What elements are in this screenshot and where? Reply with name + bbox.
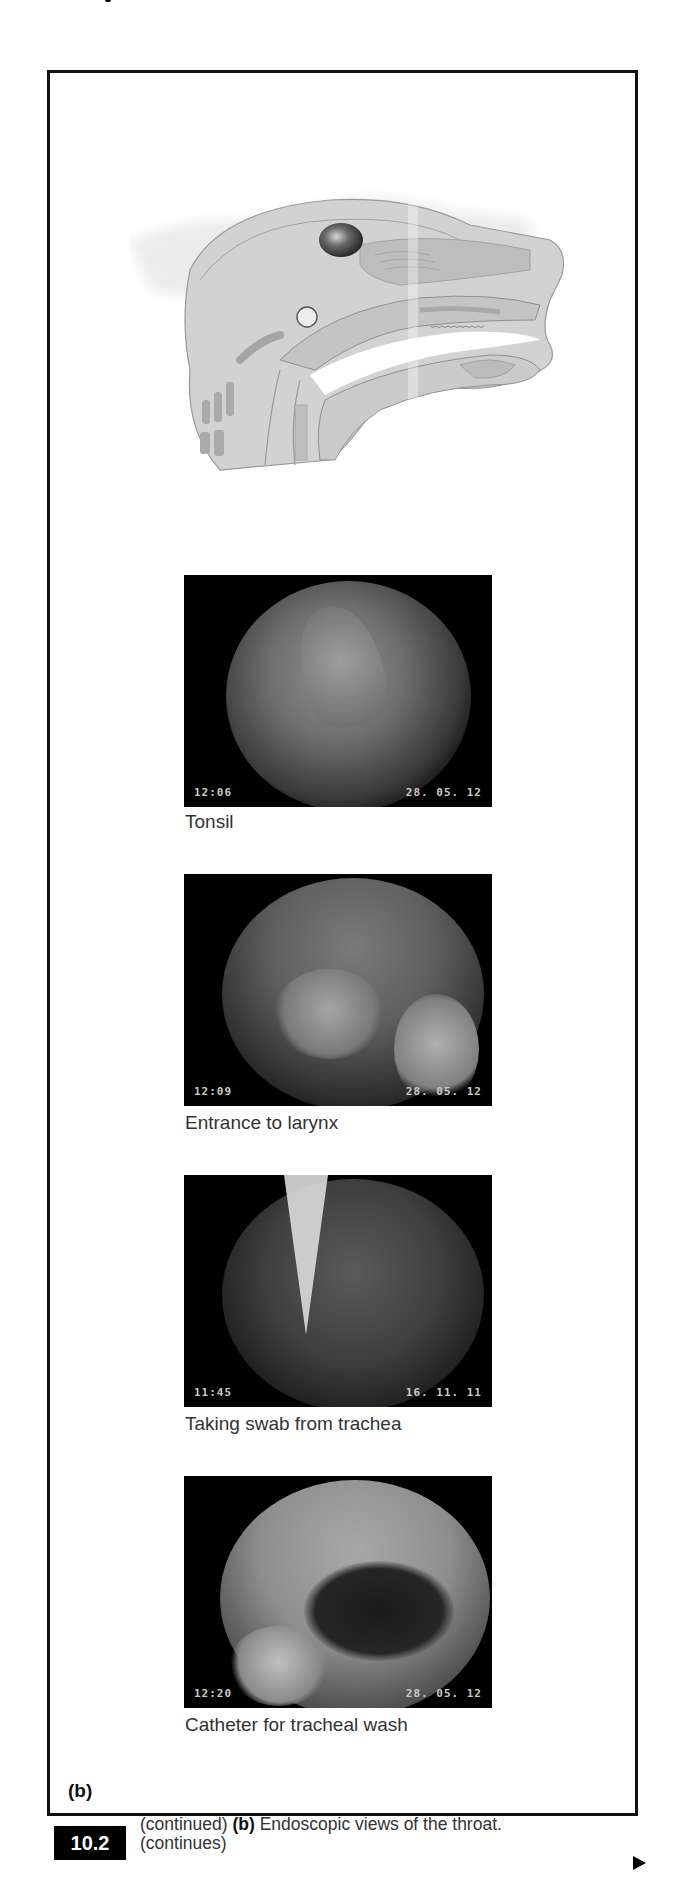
image-caption: Tonsil: [185, 811, 234, 833]
figure-number-badge: 10.2: [54, 1826, 126, 1860]
rabbit-head-sagittal-section-icon: [130, 170, 570, 480]
marker-circle-icon: [297, 307, 317, 327]
endoscopic-image-tonsil: 12:06 28. 05. 12: [184, 575, 492, 807]
caption-prefix: (continued): [140, 1814, 228, 1834]
image-caption: Taking swab from trachea: [185, 1413, 402, 1435]
swab-instrument: [284, 1175, 328, 1335]
tracheal-lumen: [304, 1561, 454, 1661]
timestamp-time: 12:09: [194, 1085, 232, 1098]
tissue-fold: [229, 1626, 329, 1706]
endoscopic-image-trachea-swab: 11:45 16. 11. 11: [184, 1175, 492, 1407]
timestamp-time: 11:45: [194, 1386, 232, 1399]
caption-panel-ref: (b): [232, 1814, 254, 1834]
timestamp-date: 28. 05. 12: [406, 1085, 482, 1098]
panel-label: (b): [68, 1780, 92, 1802]
timestamp-date: 28. 05. 12: [406, 786, 482, 799]
endoscopic-image-larynx-entrance: 12:09 28. 05. 12: [184, 874, 492, 1106]
cropped-header-fragment: [105, 0, 111, 2]
image-caption: Catheter for tracheal wash: [185, 1714, 408, 1736]
endoscopic-image-tracheal-wash-catheter: 12:20 28. 05. 12: [184, 1476, 492, 1708]
timestamp-time: 12:06: [194, 786, 232, 799]
scope-view: [222, 1179, 484, 1407]
arytenoid-left: [274, 969, 384, 1059]
timestamp-time: 12:20: [194, 1687, 232, 1700]
caption-suffix: (continues): [140, 1833, 227, 1853]
triangle-right-icon: [633, 1856, 646, 1870]
timestamp-date: 28. 05. 12: [406, 1687, 482, 1700]
head-illustration: [130, 170, 570, 480]
timestamp-date: 16. 11. 11: [406, 1386, 482, 1399]
caption-text: Endoscopic views of the throat.: [260, 1814, 502, 1834]
image-caption: Entrance to larynx: [185, 1112, 338, 1134]
figure-caption: (continued) (b) Endoscopic views of the …: [140, 1815, 640, 1853]
